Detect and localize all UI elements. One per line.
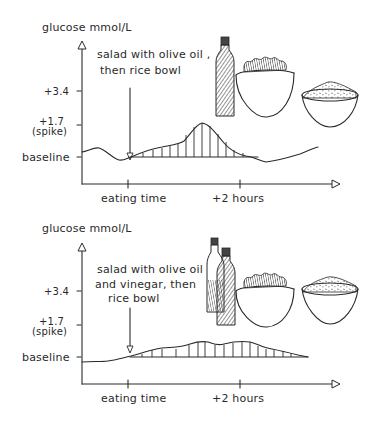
rice-bowl-icon	[302, 277, 358, 324]
ytick-baseline: baseline	[22, 151, 70, 164]
xtick-eating-time: eating time	[101, 392, 166, 405]
y-axis-arrow-icon	[78, 41, 86, 49]
y-axis-title: glucose mmol/L	[42, 222, 132, 235]
xtick-two-hours: +2 hours	[212, 392, 264, 405]
annotation-line-3: rice bowl	[108, 292, 159, 305]
ytick-spike-note: (spike)	[32, 126, 67, 137]
annotation-line-1: salad with olive oil	[97, 263, 203, 276]
ytick-spike-note: (spike)	[32, 326, 67, 337]
chart-top: glucose mmol/L +3.4 +1.7 (spike) baselin…	[22, 21, 358, 205]
x-axis-arrow-icon	[332, 180, 340, 188]
ytick-baseline: baseline	[22, 351, 70, 364]
y-axis-title: glucose mmol/L	[42, 21, 132, 34]
xtick-eating-time: eating time	[101, 192, 166, 205]
annotation-line-1: salad with olive oil ,	[97, 48, 210, 61]
annotation-line-2: and vinegar, then	[95, 278, 196, 291]
ytick-high: +3.4	[44, 286, 69, 297]
glucose-area-hatching	[143, 123, 243, 157]
rice-bowl-icon	[302, 82, 358, 127]
annotation-line-2: then rice bowl	[100, 64, 181, 77]
y-axis-arrow-icon	[78, 243, 86, 251]
glucose-curve	[82, 123, 318, 162]
xtick-two-hours: +2 hours	[212, 192, 264, 205]
x-axis-arrow-icon	[332, 380, 340, 388]
ytick-high: +3.4	[44, 86, 69, 97]
salad-bowl-icon	[236, 273, 294, 327]
salad-bowl-icon	[236, 57, 294, 117]
glucose-comparison-illustration: glucose mmol/L +3.4 +1.7 (spike) baselin…	[0, 0, 386, 424]
chart-bottom: glucose mmol/L +3.4 +1.7 (spike) baselin…	[22, 222, 358, 405]
olive-oil-bottle-icon	[216, 37, 234, 116]
